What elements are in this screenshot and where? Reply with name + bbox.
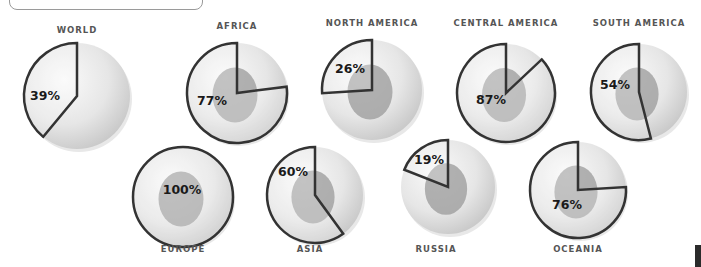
globe-world: WORLD39% [24, 25, 132, 152]
corner-dark-bar [695, 245, 701, 267]
globe-russia: RUSSIA19% [401, 140, 497, 254]
pie-wedge [133, 147, 233, 247]
region-label: SOUTH AMERICA [593, 18, 686, 28]
percent-label: 100% [163, 182, 202, 197]
globe-central-america: CENTRAL AMERICA87% [454, 18, 559, 145]
globe-africa: AFRICA77% [187, 21, 289, 146]
percent-label: 54% [600, 77, 630, 92]
region-label: NORTH AMERICA [326, 18, 419, 28]
percent-label: 87% [476, 92, 506, 107]
globe-asia: ASIA60% [267, 147, 365, 254]
region-label: EUROPE [161, 244, 206, 254]
percent-label: 26% [335, 61, 365, 76]
globe-south-america: SOUTH AMERICA54% [591, 18, 689, 143]
globe-north-america: NORTH AMERICA26% [322, 18, 424, 143]
globe-europe: EUROPE100% [133, 147, 235, 254]
region-label: WORLD [57, 25, 98, 35]
percent-label: 60% [278, 164, 308, 179]
region-label: ASIA [297, 244, 323, 254]
percent-label: 19% [414, 152, 444, 167]
region-label: RUSSIA [415, 244, 456, 254]
percent-label: 76% [552, 197, 582, 212]
globe-pie-chart: WORLD39%AFRICA77%NORTH AMERICA26%CENTRAL… [0, 0, 701, 267]
globe-oceania: OCEANIA76% [530, 142, 628, 254]
region-label: OCEANIA [553, 244, 603, 254]
region-label: AFRICA [217, 21, 258, 31]
region-label: CENTRAL AMERICA [454, 18, 559, 28]
percent-label: 77% [197, 93, 227, 108]
percent-label: 39% [30, 88, 60, 103]
